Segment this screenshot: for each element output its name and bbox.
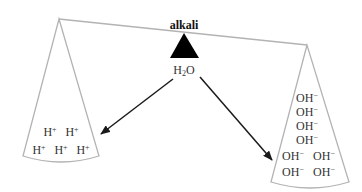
oh-ion: OH− [282,150,304,162]
oh-ion: OH− [296,120,318,132]
h-ion: H+ [76,144,89,156]
h2o-tail: O [186,63,195,77]
oh-ion: OH− [296,106,318,118]
h2o-base: H [173,63,182,77]
oh-ion: OH− [313,150,335,162]
arrow-to-right-pan [200,77,272,160]
h-ion: H+ [43,126,56,138]
h-ion: H+ [65,126,78,138]
diagram-title: alkali [170,19,199,31]
h-ion: H+ [32,144,45,156]
oh-ion: OH− [313,166,335,178]
h-ion: H+ [54,144,67,156]
oh-ion: OH− [296,92,318,104]
oh-ion: OH− [282,166,304,178]
balance-diagram: alkali H2O H+ H+ H+ H+ H+ OH− OH− OH− OH… [0,0,362,192]
fulcrum-label: H2O [173,64,194,76]
oh-ion: OH− [296,134,318,146]
fulcrum-triangle-icon [170,33,199,58]
arrow-to-left-pan [101,79,173,134]
left-pan [23,19,99,162]
